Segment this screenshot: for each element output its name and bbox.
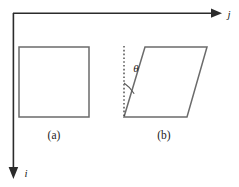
square-shape [19, 47, 89, 117]
shear-transformation-diagram: j i θ (a) (b) [0, 0, 239, 187]
caption-b: (b) [157, 129, 171, 142]
figure-container: j i θ (a) (b) [0, 0, 239, 187]
parallelogram-shape [124, 47, 207, 117]
i-axis-arrow-icon [9, 167, 19, 179]
j-axis [13, 9, 222, 18]
i-axis [9, 13, 19, 179]
i-axis-label: i [24, 167, 27, 179]
j-axis-label: j [225, 8, 230, 20]
caption-a: (a) [48, 129, 61, 142]
theta-symbol-label: θ [133, 62, 139, 74]
j-axis-arrow-icon [211, 9, 222, 18]
